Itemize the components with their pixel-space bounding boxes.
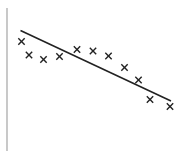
x-marker-icon xyxy=(74,46,80,52)
x-marker-icon xyxy=(40,56,46,62)
x-marker-icon xyxy=(105,53,111,59)
trend-line xyxy=(21,31,172,102)
x-marker-icon xyxy=(56,53,62,59)
x-marker-icon xyxy=(90,48,96,54)
x-marker-icon xyxy=(18,38,24,44)
scatter-plot xyxy=(0,0,187,153)
x-marker-icon xyxy=(121,64,127,70)
data-markers xyxy=(18,38,173,109)
x-marker-icon xyxy=(147,96,153,102)
x-marker-icon xyxy=(26,52,32,58)
x-marker-icon xyxy=(135,77,141,83)
x-marker-icon xyxy=(167,103,173,109)
